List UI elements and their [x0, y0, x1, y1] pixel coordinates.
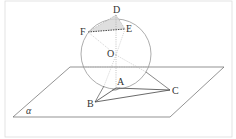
- label-O: O: [107, 48, 114, 59]
- label-E: E: [126, 23, 132, 34]
- label-plane-alpha: α: [26, 105, 32, 116]
- segment-OC-visible: [146, 72, 170, 90]
- triangle-DEF-shade: [88, 15, 125, 32]
- label-B: B: [87, 98, 94, 109]
- segment-EO: [116, 29, 125, 55]
- label-F: F: [80, 26, 86, 37]
- edge-BC: [95, 90, 170, 102]
- segment-OB-visible: [95, 86, 104, 102]
- segment-OC-hidden: [116, 55, 146, 72]
- label-D: D: [113, 4, 120, 15]
- plane-alpha: [13, 67, 224, 117]
- edge-AC: [116, 88, 170, 90]
- geometry-diagram: D F E O A B C α: [0, 0, 236, 139]
- segment-OB-hidden: [104, 55, 116, 86]
- label-C: C: [172, 85, 179, 96]
- label-A: A: [117, 76, 125, 87]
